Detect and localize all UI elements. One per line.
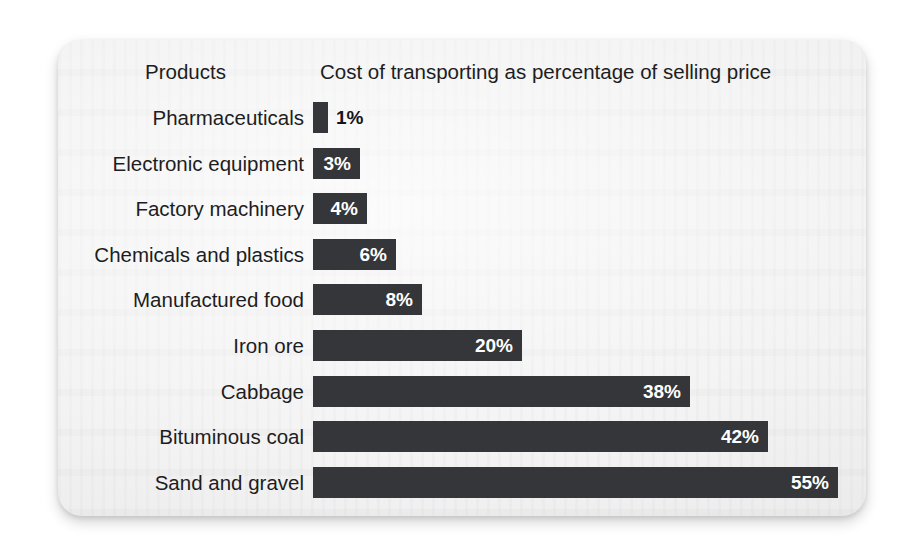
category-label: Factory machinery [58, 193, 304, 224]
bar-value-label: 1% [328, 108, 363, 127]
chart-card: Products Cost of transporting as percent… [58, 40, 866, 516]
chart-row: Electronic equipment3% [58, 148, 866, 179]
chart-row: Bituminous coal42% [58, 421, 866, 452]
chart-row: Chemicals and plastics6% [58, 239, 866, 270]
category-label: Sand and gravel [58, 467, 304, 498]
category-label: Cabbage [58, 376, 304, 407]
chart-row: Iron ore20% [58, 330, 866, 361]
bar: 38% [313, 376, 690, 407]
bar: 20% [313, 330, 522, 361]
chart-row: Manufactured food8% [58, 284, 866, 315]
bar: 8% [313, 284, 422, 315]
bar-value-label: 6% [360, 245, 396, 264]
bar: 1% [313, 102, 328, 133]
bar-value-label: 55% [791, 473, 838, 492]
bar: 4% [313, 193, 367, 224]
bar: 3% [313, 148, 360, 179]
bar: 42% [313, 421, 768, 452]
column-header-products: Products [58, 55, 313, 89]
chart-header-row: Products Cost of transporting as percent… [58, 55, 866, 89]
category-label: Bituminous coal [58, 421, 304, 452]
bar-value-label: 8% [386, 290, 422, 309]
column-header-cost-of-transporting: Cost of transporting as percentage of se… [320, 55, 771, 89]
category-label: Manufactured food [58, 284, 304, 315]
bar-value-label: 3% [324, 154, 360, 173]
chart-row: Cabbage38% [58, 376, 866, 407]
chart-row: Factory machinery4% [58, 193, 866, 224]
bar-value-label: 20% [475, 336, 522, 355]
bar: 55% [313, 467, 838, 498]
chart-row: Sand and gravel55% [58, 467, 866, 498]
bar: 6% [313, 239, 396, 270]
chart-row: Pharmaceuticals1% [58, 102, 866, 133]
category-label: Electronic equipment [58, 148, 304, 179]
bar-value-label: 42% [721, 427, 768, 446]
bar-chart: Products Cost of transporting as percent… [58, 40, 866, 516]
category-label: Chemicals and plastics [58, 239, 304, 270]
category-label: Pharmaceuticals [58, 102, 304, 133]
bar-value-label: 38% [643, 382, 690, 401]
bar-value-label: 4% [331, 199, 367, 218]
category-label: Iron ore [58, 330, 304, 361]
